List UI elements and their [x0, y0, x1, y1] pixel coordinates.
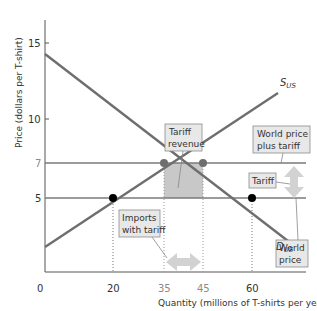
x-tick-label-35: 35 [158, 283, 171, 294]
imports-text-2: with tariff [122, 225, 166, 235]
wp-tariff-text-1: World price [257, 129, 309, 139]
tariff-chart: Tariff revenue World price plus tariff T… [0, 0, 317, 311]
tariff-double-arrow-icon [284, 166, 304, 198]
imports-leader [152, 237, 167, 258]
wp-tariff-leader [281, 153, 283, 163]
tariff-label-box: Tariff [249, 173, 276, 188]
wp-tariff-label-box: World price plus tariff [253, 126, 310, 153]
y-tick-label-10: 10 [28, 114, 41, 125]
x-tick-label-20: 20 [107, 283, 120, 294]
y-axis-title: Price (dollars per T-shirt) [14, 37, 24, 148]
world-price-leader [296, 198, 298, 240]
tariff-revenue-label-box: Tariff revenue [165, 124, 205, 151]
x-axis-title: Quantity (millions of T-shirts per year) [158, 298, 317, 308]
tariff-revenue-text-2: revenue [168, 139, 205, 149]
tariff-text: Tariff [251, 176, 275, 186]
y-tick-label-7: 7 [35, 158, 41, 169]
point-supply-world-price [109, 194, 117, 202]
supply-curve [45, 93, 278, 247]
wp-tariff-text-2: plus tariff [257, 141, 301, 151]
imports-double-arrow-icon [166, 253, 201, 271]
imports-label-box: Imports with tariff [119, 210, 166, 237]
imports-text-1: Imports [122, 213, 157, 223]
point-supply-tariff-price [160, 159, 168, 167]
world-price-text-2: price [279, 255, 302, 265]
y-tick-label-5: 5 [35, 193, 41, 204]
point-demand-world-price [248, 194, 256, 202]
tariff-revenue-area [164, 163, 203, 198]
tariff-leader [276, 182, 290, 184]
x-tick-label-45: 45 [197, 283, 210, 294]
point-demand-tariff-price [199, 159, 207, 167]
x-tick-label-60: 60 [246, 283, 259, 294]
supply-label: SUS [280, 77, 296, 90]
y-tick-label-15: 15 [28, 38, 41, 49]
tariff-revenue-text-1: Tariff [168, 127, 192, 137]
x-tick-label-0: 0 [37, 283, 43, 294]
